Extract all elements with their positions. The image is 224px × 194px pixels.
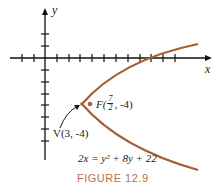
x-axis-label: x	[205, 62, 210, 77]
fraction-denominator: 2	[108, 104, 112, 112]
vertex-point	[80, 102, 84, 106]
y-axis-arrow-icon	[42, 8, 48, 15]
figure-caption: FIGURE 12.9	[77, 172, 149, 184]
vertex-pointer	[60, 106, 78, 128]
focus-label-prefix: F(	[96, 98, 106, 110]
fraction: 7 2	[107, 95, 113, 112]
x-axis-arrow-icon	[205, 55, 212, 61]
focus-point	[88, 102, 93, 107]
y-axis-label: y	[52, 3, 57, 18]
focus-label-suffix: , -4)	[114, 98, 132, 110]
equation-label: 2x = y² + 8y + 22	[78, 152, 157, 164]
focus-label: F( 7 2 , -4)	[96, 95, 133, 112]
vertex-label: V(3, -4)	[53, 127, 88, 139]
